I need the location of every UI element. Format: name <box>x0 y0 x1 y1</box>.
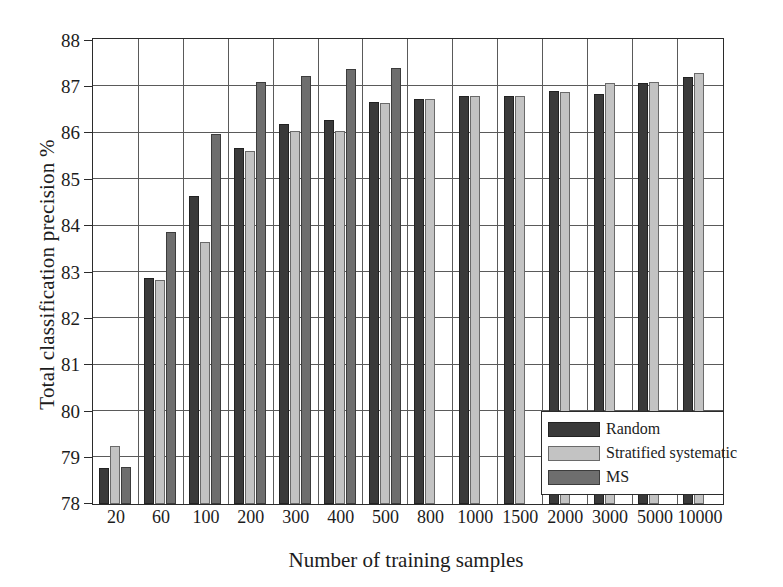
legend-item-label: Stratified systematic <box>606 444 737 462</box>
bar-ms-200 <box>256 82 266 504</box>
bar-stratified-systematic-100 <box>200 242 210 504</box>
vertical-gridline <box>407 39 408 504</box>
x-tick-label-10000: 10000 <box>677 508 722 526</box>
bar-stratified-systematic-500 <box>380 103 390 504</box>
legend-swatch-icon <box>548 470 600 485</box>
x-tick-label-200: 200 <box>237 508 264 526</box>
vertical-gridline <box>138 39 139 504</box>
x-tick-label-1000: 1000 <box>457 508 493 526</box>
y-tick-label-83: 83 <box>61 262 80 281</box>
x-tick-label-1500: 1500 <box>502 508 538 526</box>
legend-item-random: Random <box>548 417 717 441</box>
x-tick-label-300: 300 <box>282 508 309 526</box>
bar-stratified-systematic-1000 <box>470 96 480 504</box>
vertical-gridline <box>452 39 453 504</box>
x-tick-label-2000: 2000 <box>547 508 583 526</box>
bar-ms-500 <box>391 68 401 504</box>
bar-stratified-systematic-200 <box>245 151 255 504</box>
bar-random-400 <box>324 120 334 504</box>
x-tick-label-60: 60 <box>152 508 170 526</box>
x-tick-label-800: 800 <box>417 508 444 526</box>
y-tick-label-85: 85 <box>61 169 80 188</box>
bar-random-60 <box>144 278 154 504</box>
y-tick-label-88: 88 <box>61 30 80 49</box>
legend-item-label: Random <box>606 420 660 438</box>
bar-random-1500 <box>504 96 514 504</box>
bar-stratified-systematic-1500 <box>515 96 525 504</box>
y-tick-label-87: 87 <box>61 76 80 95</box>
x-tick-label-5000: 5000 <box>637 508 673 526</box>
x-tick-label-100: 100 <box>192 508 219 526</box>
bar-random-1000 <box>459 96 469 504</box>
bar-stratified-systematic-60 <box>155 280 165 504</box>
legend-item-stratified-systematic: Stratified systematic <box>548 441 717 465</box>
bar-random-300 <box>279 124 289 504</box>
vertical-gridline <box>497 39 498 504</box>
bar-random-200 <box>234 148 244 504</box>
x-tick-label-500: 500 <box>372 508 399 526</box>
bar-ms-100 <box>211 134 221 504</box>
legend-item-label: MS <box>606 468 629 486</box>
chart-legend: RandomStratified systematicMS <box>541 411 724 495</box>
x-axis-tick-labels: 2060100200300400500800100015002000300050… <box>92 508 724 536</box>
x-axis-title: Number of training samples <box>88 548 724 573</box>
bar-stratified-systematic-20 <box>110 446 120 504</box>
vertical-gridline <box>318 39 319 504</box>
vertical-gridline <box>362 39 363 504</box>
bar-ms-300 <box>301 76 311 504</box>
bar-random-100 <box>189 196 199 504</box>
y-tick-label-80: 80 <box>61 401 80 420</box>
vertical-gridline <box>183 39 184 504</box>
vertical-gridline <box>228 39 229 504</box>
y-tick-label-81: 81 <box>61 355 80 374</box>
bar-ms-20 <box>121 467 131 504</box>
legend-swatch-icon <box>548 446 600 461</box>
bar-stratified-systematic-300 <box>290 131 300 504</box>
bar-random-20 <box>99 468 109 504</box>
x-tick-label-3000: 3000 <box>592 508 628 526</box>
bar-stratified-systematic-800 <box>425 99 435 504</box>
legend-item-ms: MS <box>548 465 717 489</box>
y-tick-label-82: 82 <box>61 308 80 327</box>
vertical-gridline <box>273 39 274 504</box>
bar-ms-60 <box>166 232 176 504</box>
bar-random-500 <box>369 102 379 504</box>
bar-stratified-systematic-400 <box>335 131 345 504</box>
y-axis-tick-labels: 7879808182838485868788 <box>42 30 86 508</box>
y-tick-label-86: 86 <box>61 123 80 142</box>
y-tick-label-84: 84 <box>61 216 80 235</box>
x-tick-label-400: 400 <box>327 508 354 526</box>
bar-ms-400 <box>346 69 356 504</box>
x-tick-label-20: 20 <box>107 508 125 526</box>
bar-random-800 <box>414 99 424 504</box>
y-tick-label-78: 78 <box>61 494 80 513</box>
y-tick-label-79: 79 <box>61 448 80 467</box>
bar-chart-figure: Total classification precision % 7879808… <box>0 0 783 587</box>
legend-swatch-icon <box>548 422 600 437</box>
